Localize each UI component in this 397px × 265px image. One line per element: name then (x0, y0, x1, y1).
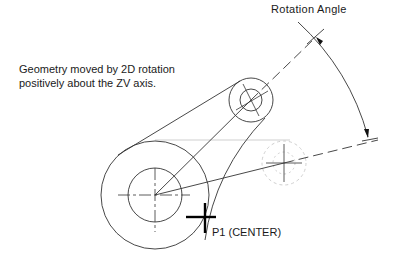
original-radius (155, 163, 284, 195)
rotation-lines (155, 22, 378, 195)
description-line-1: Geometry moved by 2D rotation (19, 62, 175, 76)
original-geometry (155, 140, 306, 185)
rotated-radius (155, 100, 251, 195)
description-note: Geometry moved by 2D rotation positively… (19, 62, 175, 90)
center-lines (118, 84, 302, 232)
rotation-angle-label: Rotation Angle (271, 3, 347, 16)
description-line-2: positively about the ZV axis. (19, 76, 175, 90)
rotation-diagram (0, 0, 397, 265)
arrowheads (316, 37, 369, 138)
angle-arc (298, 22, 368, 137)
p1-center-label: P1 (CENTER) (212, 226, 281, 239)
original-radius-ext (284, 140, 378, 163)
rotated-radius-ext (251, 37, 316, 100)
link-upper-tangent (118, 81, 240, 155)
